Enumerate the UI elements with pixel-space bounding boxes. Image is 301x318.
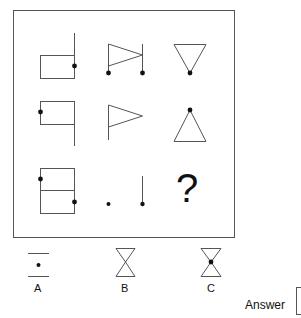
cell-r2-c2 — [109, 105, 143, 140]
upright-triangle — [174, 110, 206, 142]
missing-figure-question-mark: ? — [176, 168, 198, 208]
dot-marker — [209, 260, 214, 265]
flag-triangle — [109, 44, 143, 66]
cell-r3-c2 — [107, 176, 145, 206]
option-b-figure[interactable] — [116, 249, 135, 277]
dot-marker — [140, 202, 144, 206]
dot-marker — [188, 108, 193, 113]
dot-marker — [140, 71, 145, 76]
cell-r1-c1 — [41, 33, 77, 79]
rectangle-shape — [41, 56, 75, 79]
cell-r2-c1 — [38, 102, 74, 147]
dot-marker — [188, 71, 193, 76]
flag-triangle — [109, 105, 143, 127]
option-c-figure[interactable] — [201, 249, 221, 277]
hourglass-shape — [116, 249, 135, 277]
puzzle-canvas — [0, 0, 301, 318]
rectangle-shape — [41, 102, 75, 125]
answer-label: Answer — [245, 298, 285, 312]
dot-marker — [38, 177, 43, 182]
dot-marker — [107, 202, 111, 206]
cell-r1-c3 — [174, 45, 206, 76]
option-a-label[interactable]: A — [34, 282, 41, 294]
dot-marker — [38, 110, 43, 115]
dot-marker — [37, 263, 41, 267]
option-a-figure[interactable] — [28, 254, 49, 277]
cell-r3-c1 — [38, 169, 77, 214]
option-b-label[interactable]: B — [121, 282, 128, 294]
inverted-triangle — [174, 45, 206, 74]
answer-input-box[interactable] — [296, 287, 301, 315]
dot-marker — [72, 64, 77, 69]
cell-r1-c2 — [106, 44, 145, 75]
dot-marker — [106, 71, 111, 76]
dot-marker — [72, 200, 77, 205]
option-c-label[interactable]: C — [207, 282, 215, 294]
cell-r2-c3 — [174, 108, 206, 142]
